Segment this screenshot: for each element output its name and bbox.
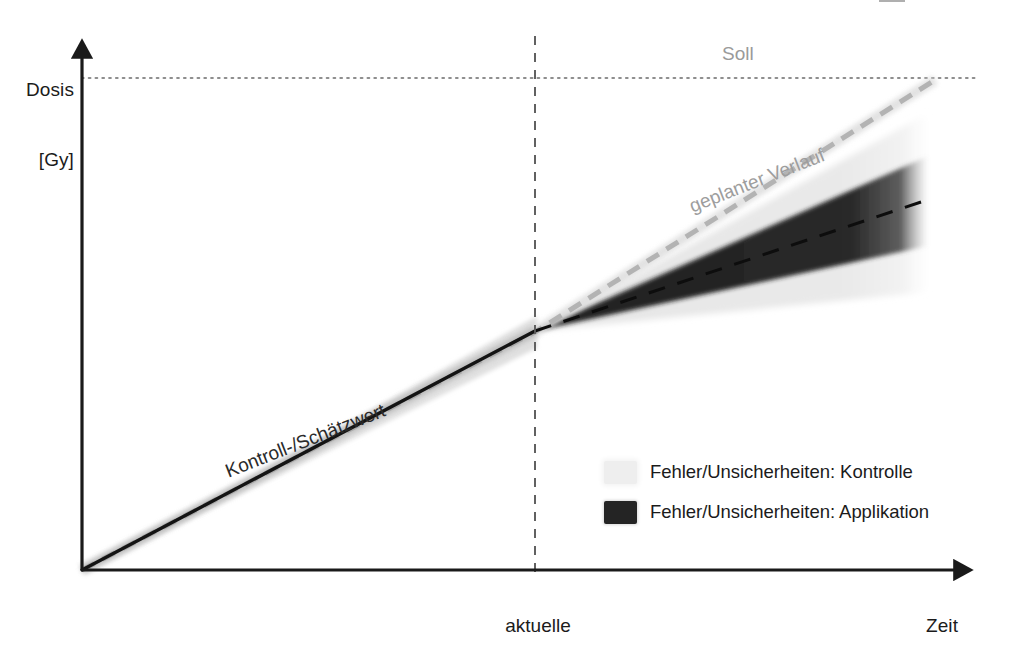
- legend-label-applikation: Fehler/Unsicherheiten: Applikation: [650, 501, 929, 523]
- control-uncertainty-swatch: [604, 461, 637, 484]
- legend: Fehler/Unsicherheiten: Kontrolle Fehler/…: [604, 452, 1004, 532]
- current-fraction-label: aktuelle Fraktion: [463, 568, 613, 647]
- plot-svg: [0, 0, 1017, 647]
- x-axis-title-name: Zeit: [926, 614, 1017, 637]
- chart-canvas: Dosis [Gy] Zeit [Fraktionen] aktuelle Fr…: [0, 0, 1017, 647]
- x-axis-title: Zeit [Fraktionen]: [926, 568, 1017, 647]
- soll-label: Soll: [722, 42, 754, 65]
- application-uncertainty-swatch: [604, 501, 637, 524]
- y-axis-title-name: Dosis: [18, 78, 74, 101]
- legend-item-kontrolle: Fehler/Unsicherheiten: Kontrolle: [604, 452, 1004, 492]
- legend-item-applikation: Fehler/Unsicherheiten: Applikation: [604, 492, 1004, 532]
- current-fraction-label-line1: aktuelle: [463, 614, 613, 637]
- y-axis-title: Dosis [Gy]: [18, 32, 74, 217]
- cropped-text-artifact: [879, 0, 905, 2]
- y-axis-title-unit: [Gy]: [18, 148, 74, 171]
- legend-label-kontrolle: Fehler/Unsicherheiten: Kontrolle: [650, 461, 913, 483]
